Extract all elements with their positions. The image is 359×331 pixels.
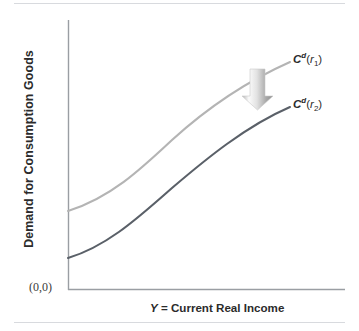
curve-label-close-paren: ) [318, 53, 322, 65]
x-axis-label-symbol: Y [150, 301, 158, 314]
y-axis-label: Demand for Consumption Goods [22, 34, 36, 264]
x-axis-label-rest: = Current Real Income [158, 301, 285, 314]
curve-label-close-paren: ) [318, 98, 322, 110]
curve-label-cd-r2: Cd(r2) [293, 98, 322, 110]
downward-shift-arrow [242, 69, 273, 110]
curve-label-cd-r1: Cd(r1) [293, 53, 322, 65]
curve-cd-r2 [68, 107, 290, 258]
origin-label: (0,0) [29, 280, 52, 295]
chart-plot-area [0, 0, 359, 331]
figure-container: Demand for Consumption Goods Y = Current… [0, 0, 359, 331]
x-axis-label: Y = Current Real Income [150, 301, 284, 314]
